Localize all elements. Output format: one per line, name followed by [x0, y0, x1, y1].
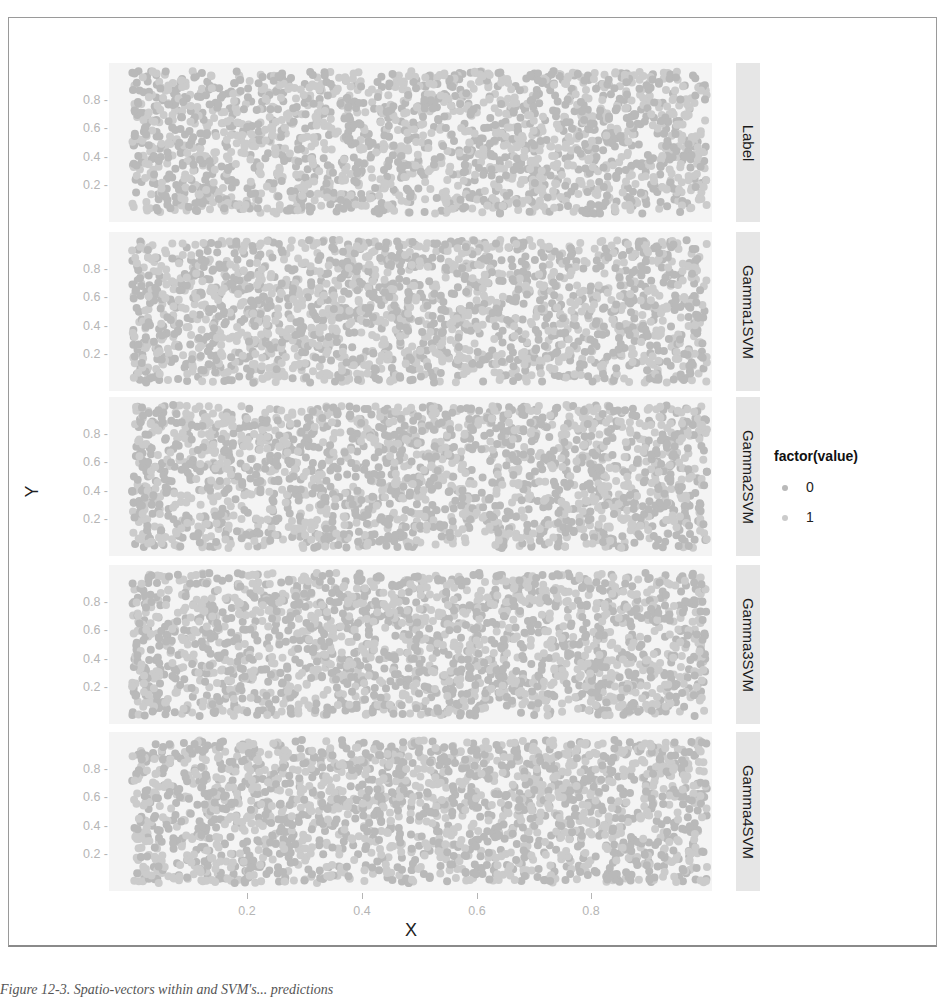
scatter-points	[109, 63, 712, 222]
scatter-points	[109, 232, 712, 391]
y-tick-label: 0.2 -	[62, 178, 108, 192]
x-tick-label: 0.6	[457, 904, 497, 918]
x-tick-mark	[477, 893, 478, 899]
scatter-points	[109, 565, 712, 724]
legend-item-1: 1	[782, 509, 814, 525]
y-tick-label: 0.4 -	[62, 819, 108, 833]
facet-panel-label	[109, 63, 712, 222]
y-tick-label: 0.8 -	[62, 262, 108, 276]
x-tick-mark	[247, 893, 248, 899]
facet-strip: Gamma3SVM	[736, 565, 760, 724]
scatter-points	[109, 732, 712, 891]
y-tick-label: 0.2 -	[62, 680, 108, 694]
x-tick-mark	[362, 893, 363, 899]
x-tick-label: 0.2	[227, 904, 267, 918]
y-tick-label: 0.6 -	[62, 290, 108, 304]
y-tick-label: 0.4 -	[62, 150, 108, 164]
legend-title: factor(value)	[774, 448, 858, 464]
y-tick-label: 0.4 -	[62, 652, 108, 666]
y-tick-label: 0.4 -	[62, 319, 108, 333]
y-tick-label: 0.6 -	[62, 623, 108, 637]
y-tick-label: 0.8 -	[62, 93, 108, 107]
x-tick-label: 0.8	[571, 904, 611, 918]
facet-strip: Gamma2SVM	[736, 397, 760, 556]
legend-dot-icon	[782, 485, 788, 491]
facet-panel-gamma4svm	[109, 732, 712, 891]
facet-panel-gamma2svm	[109, 397, 712, 556]
y-tick-label: 0.2 -	[62, 347, 108, 361]
x-axis-label: X	[405, 920, 417, 941]
y-tick-label: 0.4 -	[62, 484, 108, 498]
facet-strip: Label	[736, 63, 760, 222]
y-tick-label: 0.8 -	[62, 762, 108, 776]
facet-panel-gamma3svm	[109, 565, 712, 724]
x-tick-mark	[591, 893, 592, 899]
facet-strip-label: Gamma2SVM	[740, 429, 757, 523]
facet-strip-label: Gamma1SVM	[740, 264, 757, 358]
facet-strip: Gamma4SVM	[736, 732, 760, 891]
y-tick-label: 0.2 -	[62, 512, 108, 526]
y-axis-label: Y	[22, 485, 43, 497]
facet-strip: Gamma1SVM	[736, 232, 760, 391]
facet-strip-label: Gamma4SVM	[740, 764, 757, 858]
y-tick-label: 0.2 -	[62, 847, 108, 861]
legend-item-0: 0	[782, 479, 814, 495]
figure-caption: Figure 12-3. Spatio-vectors within and S…	[0, 982, 333, 998]
scatter-points	[109, 397, 712, 556]
facet-strip-label: Label	[740, 124, 757, 161]
y-tick-label: 0.6 -	[62, 121, 108, 135]
legend-dot-icon	[782, 515, 788, 521]
x-tick-label: 0.4	[342, 904, 382, 918]
y-tick-label: 0.8 -	[62, 427, 108, 441]
facet-panel-gamma1svm	[109, 232, 712, 391]
y-tick-label: 0.6 -	[62, 790, 108, 804]
y-tick-label: 0.8 -	[62, 595, 108, 609]
facet-strip-label: Gamma3SVM	[740, 597, 757, 691]
y-tick-label: 0.6 -	[62, 455, 108, 469]
